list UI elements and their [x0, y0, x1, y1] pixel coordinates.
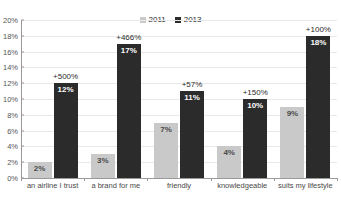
y-axis-tick-mark [21, 67, 24, 68]
y-axis-tick-mark [21, 114, 24, 115]
y-axis-tick-label: 18% [3, 31, 18, 40]
bar-value-label: 3% [97, 154, 109, 165]
bar-2011[interactable]: 2% [28, 162, 52, 178]
bar-2011[interactable]: 3% [91, 154, 115, 178]
bar-2013[interactable]: 17%+466% [117, 44, 141, 178]
x-axis-label: suits my lifestyle [274, 182, 337, 200]
bar-pair: 9%18%+100% [274, 20, 337, 178]
bar-value-label: 10% [247, 99, 263, 110]
bar-pair: 4%10%+150% [211, 20, 274, 178]
bar-value-label: 12% [58, 83, 74, 94]
x-axis-tick-mark [147, 178, 148, 181]
bar-value-label: 7% [160, 123, 172, 134]
bar-2011[interactable]: 9% [280, 107, 304, 178]
bar-2013[interactable]: 11%+57% [180, 91, 204, 178]
growth-annotation: +466% [116, 34, 141, 42]
y-axis-tick-label: 12% [3, 79, 18, 88]
x-axis-tick-mark [337, 178, 338, 181]
y-axis-tick-label: 16% [3, 47, 18, 56]
x-axis-labels: an airline I trusta brand for mefriendly… [21, 182, 337, 200]
x-axis-label: friendly [147, 182, 210, 200]
y-axis-tick-mark [21, 51, 24, 52]
y-axis-tick-label: 6% [7, 126, 18, 135]
bar-group: 7%11%+57% [147, 20, 210, 178]
growth-annotation: +500% [53, 73, 78, 81]
growth-annotation: +57% [182, 81, 203, 89]
bar-chart: 2011 2013 0%2%4%6%8%10%12%14%16%18%20% 2… [0, 0, 341, 204]
y-axis-tick-label: 20% [3, 16, 18, 25]
bar-value-label: 18% [310, 36, 326, 47]
y-axis-tick-mark [21, 83, 24, 84]
y-axis-tick-mark [21, 130, 24, 131]
bar-value-label: 2% [34, 162, 46, 173]
y-axis-tick-mark [21, 146, 24, 147]
y-axis-tick-label: 10% [3, 95, 18, 104]
bar-group: 3%17%+466% [84, 20, 147, 178]
x-axis-tick-mark [274, 178, 275, 181]
y-axis-tick-mark [21, 162, 24, 163]
y-axis-tick-mark [21, 99, 24, 100]
bar-2011[interactable]: 7% [154, 123, 178, 178]
y-axis-tick-label: 0% [7, 174, 18, 183]
bar-pair: 3%17%+466% [84, 20, 147, 178]
gridline [21, 178, 337, 179]
y-axis-tick-mark [21, 35, 24, 36]
bar-group: 4%10%+150% [211, 20, 274, 178]
y-axis-tick-label: 4% [7, 142, 18, 151]
y-axis-tick-label: 14% [3, 63, 18, 72]
x-axis-tick-mark [21, 178, 22, 181]
bar-pair: 2%12%+500% [21, 20, 84, 178]
y-axis-tick-label: 8% [7, 110, 18, 119]
bar-2011[interactable]: 4% [217, 146, 241, 178]
bar-pair: 7%11%+57% [147, 20, 210, 178]
plot-area: 2%12%+500%3%17%+466%7%11%+57%4%10%+150%9… [21, 20, 337, 178]
bar-value-label: 11% [184, 91, 200, 102]
bar-value-label: 17% [121, 44, 137, 55]
y-axis-tick-mark [21, 20, 24, 21]
y-axis-ticks: 0%2%4%6%8%10%12%14%16%18%20% [0, 20, 21, 178]
bar-group: 2%12%+500% [21, 20, 84, 178]
x-axis-label: a brand for me [84, 182, 147, 200]
growth-annotation: +100% [306, 26, 331, 34]
bar-2013[interactable]: 12%+500% [54, 83, 78, 178]
y-axis-tick-label: 2% [7, 158, 18, 167]
x-axis-tick-mark [84, 178, 85, 181]
x-axis-label: an airline I trust [21, 182, 84, 200]
bar-value-label: 9% [287, 107, 299, 118]
x-axis-label: knowledgeable [211, 182, 274, 200]
x-axis-tick-mark [211, 178, 212, 181]
growth-annotation: +150% [243, 89, 268, 97]
bar-2013[interactable]: 10%+150% [243, 99, 267, 178]
bar-2013[interactable]: 18%+100% [306, 36, 330, 178]
chart-title [6, 0, 206, 3]
bar-group: 9%18%+100% [274, 20, 337, 178]
bar-value-label: 4% [223, 146, 235, 157]
bar-groups: 2%12%+500%3%17%+466%7%11%+57%4%10%+150%9… [21, 20, 337, 178]
